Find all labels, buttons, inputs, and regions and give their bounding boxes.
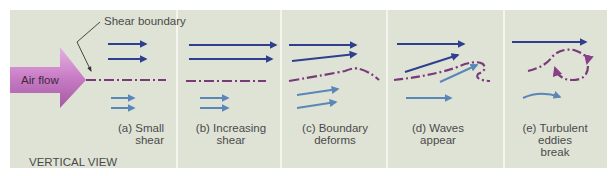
stage-c-caption: (c) Boundary deforms xyxy=(290,122,380,146)
stage-b-caption: (b) Increasing shear xyxy=(186,122,276,146)
stage-d-caption: (d) Waves appear xyxy=(398,122,478,146)
shear-boundary-label: Shear boundary xyxy=(104,15,186,27)
stage-a-caption: (a) Small shear xyxy=(104,122,164,146)
stage-e-caption: (e) Turbulent eddies break xyxy=(510,122,600,158)
pointer-line xyxy=(77,22,100,71)
vertical-view-label: VERTICAL VIEW xyxy=(29,156,117,168)
air-flow-label: Air flow xyxy=(21,74,59,86)
